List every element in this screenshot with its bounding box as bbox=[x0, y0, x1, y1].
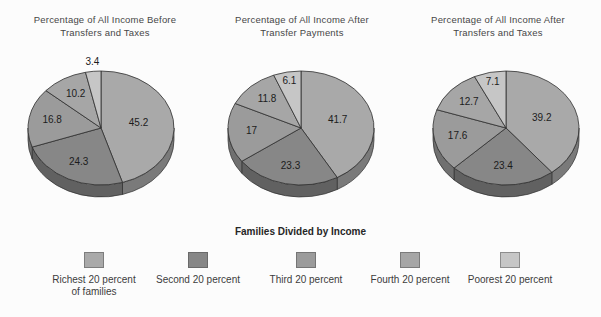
legend-swatch-second bbox=[188, 252, 208, 268]
chart-after-transfer-payments: Percentage of All Income After Transfer … bbox=[202, 0, 402, 235]
pie-slice-label-poorest: 7.1 bbox=[486, 76, 500, 87]
legend-swatch-fourth bbox=[400, 252, 420, 268]
pie-before-transfers-and-taxes: 45.224.316.810.23.4 bbox=[5, 0, 205, 235]
pie-slice-label-richest: 45.2 bbox=[129, 117, 149, 128]
pie-slice-label-second: 24.3 bbox=[69, 156, 89, 167]
pie-slice-label-second: 23.3 bbox=[281, 160, 301, 171]
legend-swatch-third bbox=[296, 252, 316, 268]
pie-slice-label-third: 16.8 bbox=[42, 114, 62, 125]
pie-slice-label-fourth: 11.8 bbox=[258, 93, 277, 104]
pie-slice-label-richest: 39.2 bbox=[532, 112, 552, 123]
income-distribution-figure: Percentage of All Income Before Transfer… bbox=[0, 0, 601, 317]
legend-swatch-richest bbox=[84, 252, 104, 268]
chart-before-transfers-and-taxes: Percentage of All Income Before Transfer… bbox=[5, 0, 205, 235]
pie-slice-label-third: 17.6 bbox=[448, 130, 468, 141]
pie-slice-label-fourth: 10.2 bbox=[66, 88, 86, 99]
pie-slice-label-second: 23.4 bbox=[493, 160, 513, 171]
pie-slice-label-richest: 41.7 bbox=[328, 114, 348, 125]
legend-item-poorest: Poorest 20 percent bbox=[445, 252, 575, 286]
pie-slice-label-fourth: 12.7 bbox=[459, 96, 479, 107]
pie-slice-label-poorest: 6.1 bbox=[282, 75, 296, 86]
pie-after-transfer-payments: 41.723.31711.86.1 bbox=[202, 0, 402, 235]
pie-slice-label-third: 17 bbox=[246, 125, 258, 136]
pie-after-transfers-and-taxes: 39.223.417.612.77.1 bbox=[398, 0, 598, 235]
legend-title: Families Divided by Income bbox=[0, 226, 601, 237]
legend-swatch-poorest bbox=[500, 252, 520, 268]
legend-label: Poorest 20 percent bbox=[445, 274, 575, 286]
pie-slice-label-poorest: 3.4 bbox=[85, 56, 99, 67]
legend-label: of families bbox=[29, 286, 159, 298]
chart-after-transfers-and-taxes: Percentage of All Income After Transfers… bbox=[398, 0, 598, 235]
